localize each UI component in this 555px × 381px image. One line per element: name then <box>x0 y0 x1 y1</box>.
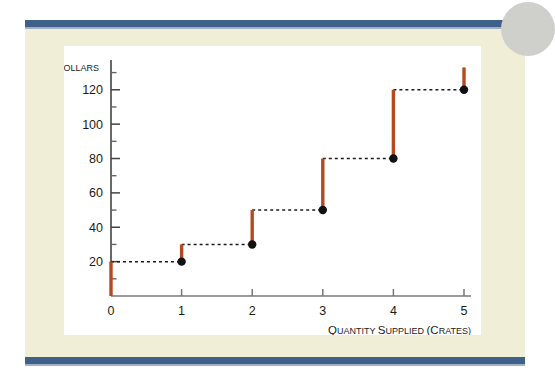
bottom-rule-shadow <box>25 364 525 366</box>
y-tick-label-60: 60 <box>89 186 103 200</box>
data-point-2 <box>319 206 327 214</box>
chart-card: 20406080100120012345DOLLARSQUANTITY SUPP… <box>64 46 481 335</box>
top-rule-shadow <box>25 27 525 29</box>
data-point-3 <box>389 154 397 162</box>
step-supply-chart: 20406080100120012345DOLLARSQUANTITY SUPP… <box>64 46 481 335</box>
x-tick-label-3: 3 <box>319 304 326 318</box>
x-tick-label-0: 0 <box>108 304 115 318</box>
y-tick-label-20: 20 <box>89 255 103 269</box>
y-tick-label-100: 100 <box>82 118 103 132</box>
data-point-1 <box>248 240 256 248</box>
data-point-4 <box>460 86 468 94</box>
x-tick-label-5: 5 <box>461 304 468 318</box>
x-axis-title: QUANTITY SUPPLIED (CRATES) <box>328 324 471 335</box>
y-axis-title: DOLLARS <box>64 61 99 73</box>
x-tick-label-2: 2 <box>249 304 256 318</box>
y-tick-label-80: 80 <box>89 152 103 166</box>
y-tick-label-120: 120 <box>82 83 103 97</box>
data-point-0 <box>177 257 185 265</box>
bottom-rule <box>25 357 525 364</box>
x-tick-label-1: 1 <box>178 304 185 318</box>
top-rule <box>25 20 525 27</box>
x-tick-label-4: 4 <box>390 304 397 318</box>
corner-circle-decoration <box>501 2 555 56</box>
y-tick-label-40: 40 <box>89 221 103 235</box>
